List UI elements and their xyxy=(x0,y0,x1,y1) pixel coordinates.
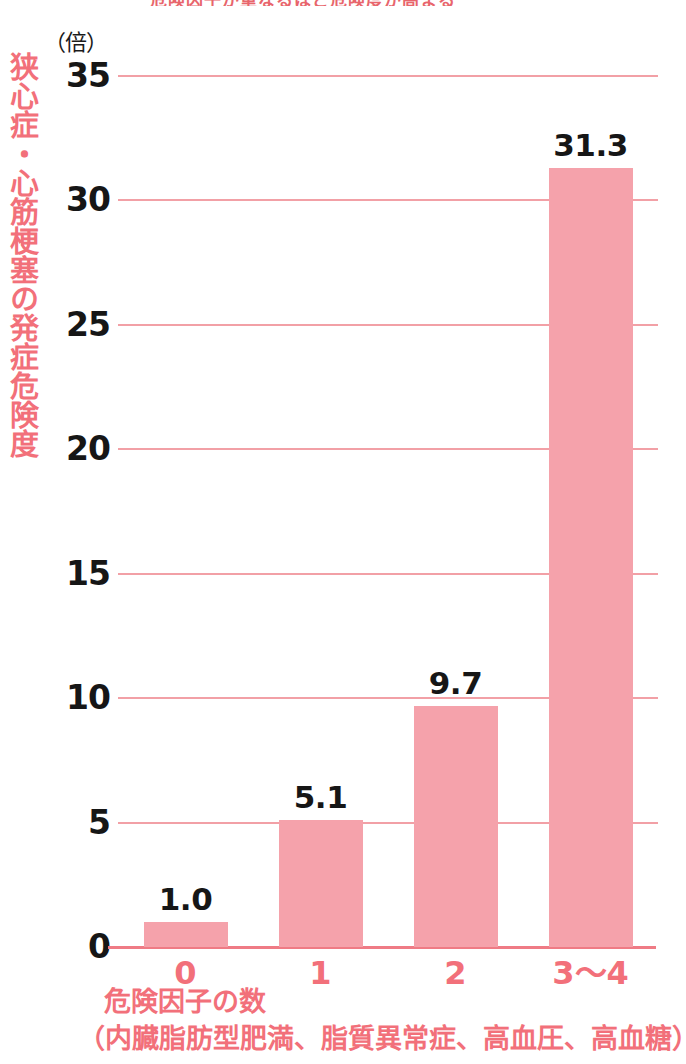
bar-value-label-0: 1.0 xyxy=(116,884,256,915)
bar-value-label-3〜4: 31.3 xyxy=(521,130,661,161)
y-tick-label-25: 25 xyxy=(36,308,110,341)
y-tick-label-10: 10 xyxy=(36,681,110,714)
cropped-headline-text: 危険因子が重なるほど危険度が高まる xyxy=(150,0,456,6)
y-tick-label-20: 20 xyxy=(36,432,110,465)
x-tick-label-3〜4: 3〜4 xyxy=(511,957,671,989)
bar-0 xyxy=(144,922,228,947)
gridline-35 xyxy=(118,75,658,77)
bar-2 xyxy=(414,706,498,947)
bar-3〜4 xyxy=(549,168,633,947)
bar-1 xyxy=(279,820,363,947)
x-axis-title: 危険因子の数 xyxy=(104,988,266,1015)
plot-area: 1.05.19.731.3 xyxy=(118,76,658,947)
y-tick-label-30: 30 xyxy=(36,183,110,216)
x-axis-note: （内臓脂肪型肥満、脂質異常症、高血圧、高血糖） xyxy=(78,1025,686,1052)
y-tick-label-15: 15 xyxy=(36,557,110,590)
y-axis-unit-label: （倍） xyxy=(44,24,107,56)
y-tick-label-35: 35 xyxy=(36,59,110,92)
y-tick-label-5: 5 xyxy=(36,806,110,839)
y-tick-label-0: 0 xyxy=(36,930,110,963)
bar-value-label-1: 5.1 xyxy=(251,782,391,813)
bar-value-label-2: 9.7 xyxy=(386,668,526,699)
y-axis-title: 狭心症・心筋梗塞の発症危険度 xyxy=(2,52,36,552)
cropped-headline-remnant: 危険因子が重なるほど危険度が高まる xyxy=(0,0,668,6)
